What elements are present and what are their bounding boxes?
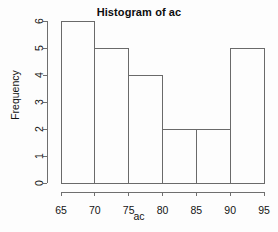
bars-group [61,21,264,183]
x-tick-label: 85 [190,204,202,216]
histogram-bar [129,75,163,183]
plot-canvas: 0123456 65707580859095 [0,0,278,232]
y-tick-label: 3 [33,99,45,105]
histogram-bar [196,129,230,183]
x-axis [61,192,264,196]
histogram-bar [230,48,264,183]
y-tick-label: 5 [33,45,45,51]
x-tick-label: 75 [123,204,135,216]
y-tick-label: 4 [33,72,45,78]
x-tick-label: 80 [157,204,169,216]
y-tick-labels: 0123456 [33,18,45,186]
histogram-bar [163,129,197,183]
x-tick-labels: 65707580859095 [55,204,270,216]
y-tick-label: 2 [33,126,45,132]
x-tick-label: 65 [55,204,67,216]
y-tick-label: 0 [33,180,45,186]
y-tick-label: 6 [33,18,45,24]
x-tick-label: 95 [258,204,270,216]
x-tick-label: 70 [89,204,101,216]
histogram-plot: Histogram of ac Frequency ac 0123456 657… [0,0,278,232]
y-tick-label: 1 [33,153,45,159]
histogram-bar [61,21,95,183]
histogram-bar [95,48,129,183]
x-tick-label: 90 [224,204,236,216]
